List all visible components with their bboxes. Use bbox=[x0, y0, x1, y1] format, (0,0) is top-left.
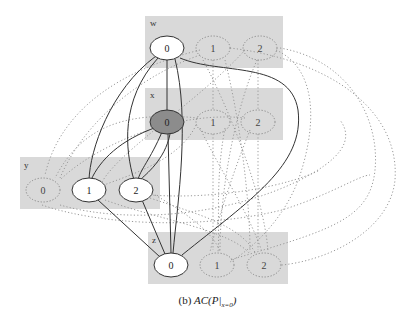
figure-caption: (b) AC(P|x=0) bbox=[0, 294, 415, 309]
svg-text:1: 1 bbox=[211, 43, 216, 54]
node-y2: 2 bbox=[119, 178, 153, 202]
constraint-graph: 0 1 2 0 1 2 0 1 bbox=[0, 0, 415, 316]
caption-expr: AC(P|x=0) bbox=[194, 294, 236, 306]
cluster-labels: w x y z bbox=[24, 18, 157, 245]
cluster-label-y: y bbox=[24, 160, 29, 170]
svg-text:0: 0 bbox=[165, 117, 170, 128]
caption-prefix: (b) bbox=[178, 294, 191, 306]
node-y1: 1 bbox=[72, 178, 106, 202]
cluster-label-w: w bbox=[150, 18, 157, 28]
node-x0-selected: 0 bbox=[150, 110, 184, 134]
svg-text:1: 1 bbox=[87, 185, 92, 196]
svg-text:2: 2 bbox=[258, 43, 263, 54]
node-w0: 0 bbox=[150, 36, 184, 60]
svg-text:2: 2 bbox=[134, 185, 139, 196]
svg-text:1: 1 bbox=[215, 260, 220, 271]
svg-text:2: 2 bbox=[262, 260, 267, 271]
node-z0: 0 bbox=[154, 253, 188, 277]
cluster-label-z: z bbox=[152, 235, 156, 245]
svg-text:1: 1 bbox=[211, 117, 216, 128]
svg-text:2: 2 bbox=[256, 117, 261, 128]
svg-text:0: 0 bbox=[41, 185, 46, 196]
cluster-label-x: x bbox=[150, 90, 155, 100]
svg-text:0: 0 bbox=[169, 260, 174, 271]
svg-text:0: 0 bbox=[165, 43, 170, 54]
